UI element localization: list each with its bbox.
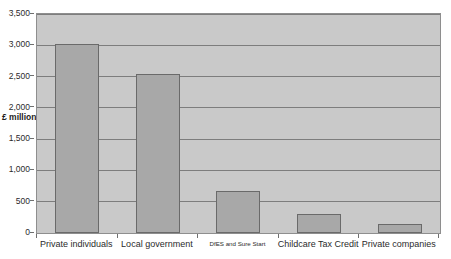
bars-layer: [37, 14, 440, 233]
bar[interactable]: [216, 191, 260, 233]
bar[interactable]: [136, 74, 180, 233]
y-axis-tick-mark: [30, 169, 34, 170]
x-axis-tick-mark: [278, 234, 279, 238]
x-axis: Private individualsLocal governmentDfES …: [36, 234, 441, 259]
y-axis-tick-label: 2,000: [9, 102, 30, 112]
bar-slot: [198, 14, 279, 233]
chart-title: [0, 0, 451, 3]
bar-chart: 05001,0001,5002,0002,5003,0003,500 £ mil…: [0, 0, 451, 259]
bar[interactable]: [55, 44, 99, 233]
y-axis-tick-mark: [30, 200, 34, 201]
x-axis-tick-mark: [36, 234, 37, 238]
y-axis: 05001,0001,5002,0002,5003,0003,500: [0, 13, 34, 234]
y-axis-tick-mark: [30, 44, 34, 45]
x-axis-category-label: Private individuals: [40, 239, 113, 249]
plot-area: [36, 13, 441, 234]
bar-slot: [118, 14, 199, 233]
y-axis-tick-label: 1,500: [9, 133, 30, 143]
bar-slot: [359, 14, 440, 233]
bar-slot: [279, 14, 360, 233]
y-axis-tick-label: 2,500: [9, 71, 30, 81]
x-axis-category-label: Private companies: [362, 239, 436, 249]
x-axis-tick-mark: [438, 234, 439, 238]
bar[interactable]: [297, 214, 341, 233]
y-axis-tick-label: 3,500: [9, 8, 30, 18]
y-axis-tick-mark: [30, 232, 34, 233]
x-axis-category-label: Local government: [121, 239, 193, 249]
y-axis-tick-mark: [30, 13, 34, 14]
x-axis-tick-mark: [117, 234, 118, 238]
x-axis-category-label: DfES and Sure Start: [209, 240, 265, 247]
y-axis-tick-label: 500: [16, 196, 30, 206]
y-axis-tick-mark: [30, 138, 34, 139]
bar[interactable]: [378, 224, 422, 233]
y-axis-tick-mark: [30, 106, 34, 107]
y-axis-title: £ million: [2, 112, 36, 122]
y-axis-tick-label: 3,000: [9, 39, 30, 49]
x-axis-tick-mark: [358, 234, 359, 238]
bar-slot: [37, 14, 118, 233]
y-axis-tick-mark: [30, 75, 34, 76]
x-axis-tick-mark: [197, 234, 198, 238]
x-axis-category-label: Childcare Tax Credit: [278, 239, 359, 249]
y-axis-tick-label: 1,000: [9, 164, 30, 174]
